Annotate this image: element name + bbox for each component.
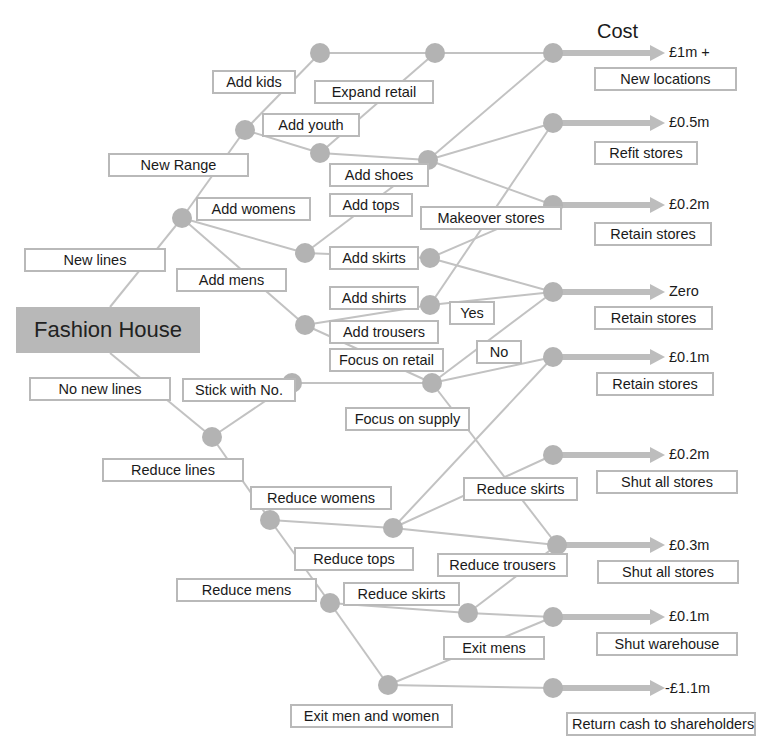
label-add-youth: Add youth (262, 113, 360, 137)
label-new-range: New Range (108, 153, 249, 177)
arrow-5 (553, 349, 665, 365)
outcome-action-1: New locations (594, 67, 737, 91)
outcome-action-4: Retain stores (594, 306, 713, 330)
label-add-trousers: Add trousers (329, 320, 439, 344)
arrow-8 (553, 609, 665, 625)
arrow-2 (553, 115, 665, 131)
arrow-9 (553, 680, 665, 696)
label-add-shirts: Add shirts (329, 286, 419, 310)
label-stick-with-no: Stick with No. (182, 378, 296, 402)
root-node-fashion-house: Fashion House (16, 307, 200, 353)
arrow-3 (553, 197, 665, 213)
label-yes: Yes (449, 301, 495, 325)
label-reduce-trousers: Reduce trousers (437, 553, 568, 577)
label-focus-on-supply: Focus on supply (345, 407, 470, 431)
label-reduce-womens: Reduce womens (250, 486, 392, 510)
outcome-cost-1: £1m + (669, 44, 710, 60)
outcome-cost-8: £0.1m (669, 608, 709, 624)
label-reduce-skirts-upper: Reduce skirts (463, 477, 578, 501)
label-exit-mens: Exit mens (443, 636, 545, 660)
arrow-7 (557, 537, 665, 553)
outcome-cost-3: £0.2m (669, 196, 709, 212)
outcome-cost-2: £0.5m (669, 114, 709, 130)
arrow-4 (553, 284, 665, 300)
label-reduce-lines: Reduce lines (102, 458, 244, 482)
outcome-action-3: Retain stores (594, 222, 712, 246)
outcome-cost-9: -£1.1m (665, 680, 710, 696)
label-makeover-stores: Makeover stores (420, 206, 562, 230)
outcome-cost-6: £0.2m (669, 446, 709, 462)
label-no: No (476, 340, 522, 364)
outcome-cost-5: £0.1m (669, 349, 709, 365)
label-add-skirts: Add skirts (329, 246, 419, 270)
outcome-cost-4: Zero (669, 283, 699, 299)
outcome-action-8: Shut warehouse (596, 632, 738, 656)
label-reduce-mens: Reduce mens (176, 578, 317, 602)
outcome-action-5: Retain stores (596, 372, 714, 396)
label-reduce-tops: Reduce tops (294, 547, 414, 571)
label-add-shoes: Add shoes (329, 163, 429, 187)
cost-column-title: Cost (597, 20, 638, 43)
outcome-cost-7: £0.3m (669, 537, 709, 553)
label-new-lines: New lines (24, 248, 166, 272)
label-add-womens: Add womens (196, 197, 311, 221)
arrow-1 (553, 45, 665, 61)
label-exit-men-and-women: Exit men and women (290, 704, 453, 728)
label-add-kids: Add kids (212, 70, 296, 94)
label-add-tops: Add tops (329, 193, 413, 217)
label-reduce-skirts-lower: Reduce skirts (343, 582, 460, 606)
outcome-action-7: Shut all stores (597, 560, 739, 584)
label-no-new-lines: No new lines (29, 377, 171, 401)
label-expand-retail: Expand retail (314, 80, 434, 104)
label-add-mens: Add mens (176, 268, 287, 292)
label-focus-on-retail: Focus on retail (329, 348, 444, 372)
outcome-action-9: Return cash to shareholders (566, 712, 756, 736)
arrow-6 (553, 447, 665, 463)
outcome-action-6: Shut all stores (596, 470, 738, 494)
outcome-action-2: Refit stores (594, 141, 698, 165)
